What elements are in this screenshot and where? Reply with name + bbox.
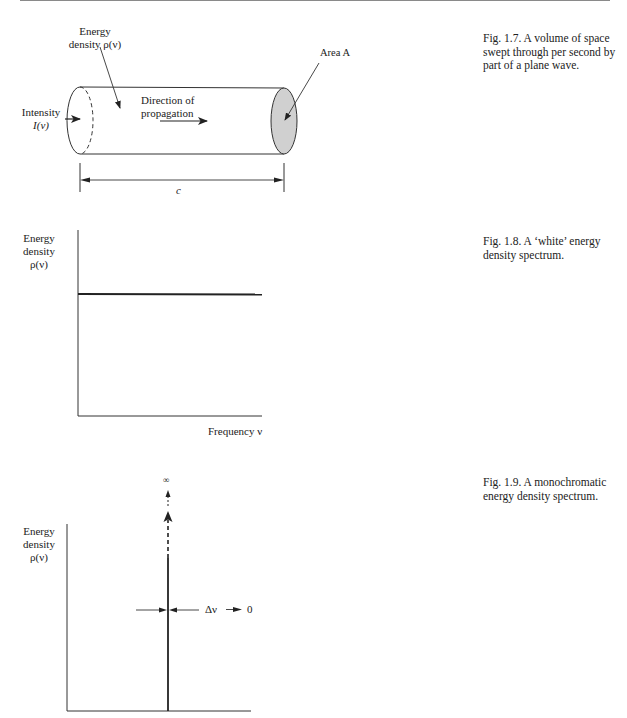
y-axis-label: Energy density ρ(ν) bbox=[20, 232, 58, 271]
figure-1-9-caption: Fig. 1.9. A monochromatic energy density… bbox=[483, 476, 623, 503]
label-line: Intensity bbox=[16, 106, 66, 119]
intensity-label: Intensity I(ν) bbox=[16, 106, 66, 132]
infinity-label: ∞ bbox=[163, 474, 169, 487]
label-line: propagation bbox=[141, 107, 194, 120]
x-axis-label: Frequency ν bbox=[208, 425, 262, 438]
label-line: Energy bbox=[55, 25, 135, 38]
figure-1-8-chart bbox=[78, 230, 262, 416]
label-line: Energy bbox=[20, 525, 58, 538]
length-label: c bbox=[176, 184, 181, 197]
label-line: density bbox=[20, 245, 58, 258]
label-line: Direction of bbox=[141, 94, 194, 107]
figure-1-7-diagram bbox=[0, 0, 627, 718]
area-a-ellipse bbox=[271, 88, 297, 154]
energy-density-pointer bbox=[100, 47, 120, 108]
y-axis-label: Energy density ρ(ν) bbox=[20, 525, 58, 564]
direction-label: Direction of propagation bbox=[141, 94, 194, 120]
energy-density-label: Energy density ρ(ν) bbox=[55, 25, 135, 51]
label-line: ρ(ν) bbox=[20, 551, 58, 564]
label-line: Energy bbox=[20, 232, 58, 245]
figure-1-7-caption: Fig. 1.7. A volume of space swept throug… bbox=[483, 32, 623, 73]
length-dimension bbox=[80, 163, 284, 192]
figure-1-9-chart bbox=[67, 490, 251, 711]
area-label: Area A bbox=[320, 46, 350, 59]
label-line: density ρ(ν) bbox=[55, 38, 135, 51]
label-line: ρ(ν) bbox=[20, 258, 58, 271]
label-line: I(ν) bbox=[16, 119, 66, 132]
white-spectrum-line bbox=[78, 294, 262, 295]
figure-1-8-caption: Fig. 1.8. A ‘white’ energy density spect… bbox=[483, 235, 623, 262]
delta-nu-label: Δν bbox=[205, 603, 217, 616]
label-line: density bbox=[20, 538, 58, 551]
limit-zero-label: 0 bbox=[247, 603, 253, 616]
